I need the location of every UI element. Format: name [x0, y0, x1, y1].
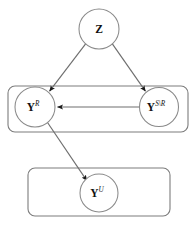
- edge-z-to-yr: [50, 43, 86, 91]
- edge-yr-to-yu: [48, 123, 87, 181]
- node-yr[interactable]: YR: [15, 87, 55, 127]
- node-yu[interactable]: YU: [80, 174, 118, 212]
- graphical-model-figure: Z YR YS\R YU: [0, 0, 195, 226]
- edge-group: [48, 43, 146, 180]
- node-z[interactable]: Z: [79, 9, 119, 49]
- node-ysr[interactable]: YS\R: [140, 88, 179, 127]
- graph-canvas: Z YR YS\R YU: [0, 0, 195, 226]
- node-group: Z YR YS\R YU: [15, 9, 179, 212]
- node-z-label: Z: [95, 22, 103, 34]
- edge-z-to-ysr: [112, 43, 145, 91]
